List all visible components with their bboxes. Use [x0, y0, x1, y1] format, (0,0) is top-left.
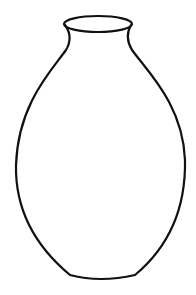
vase-rim [64, 16, 132, 32]
vase-body [16, 25, 185, 279]
vase-icon [0, 0, 196, 295]
vase-drawing [0, 0, 196, 295]
